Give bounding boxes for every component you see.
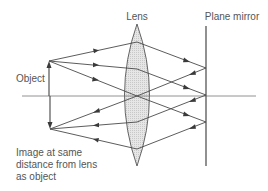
object-label: Object [16,73,45,84]
object-arrow [47,61,52,96]
lens-mirror-diagram: Lens Plane mirror Object Image at same d… [0,0,268,191]
image-caption-line2: distance from lens [16,159,97,170]
image-caption-line3: as object [16,171,56,182]
plane-mirror-label: Plane mirror [205,11,260,22]
lens-label: Lens [126,11,148,22]
image-arrow [48,96,53,129]
image-caption-line1: Image at same [16,147,83,158]
